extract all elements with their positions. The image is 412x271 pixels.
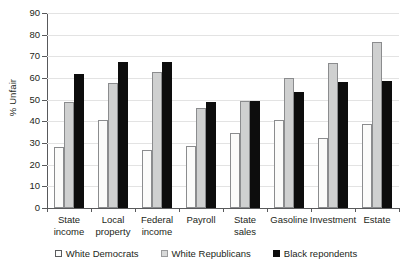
bar [74,74,84,208]
y-tick-label-text: 80 [2,30,40,40]
bar-group [267,13,311,208]
y-tick-label-text: 70 [2,51,40,61]
black-square-icon [273,250,280,257]
x-tick-mark [311,208,312,212]
y-tick-label: 0 [0,203,40,213]
bar-chart: % Unfair 0102030405060708090 State incom… [0,0,412,271]
bar [338,82,348,208]
legend-item: White Republicans [161,248,251,259]
bar [162,62,172,208]
bar [250,101,260,208]
bar-group [47,13,91,208]
y-tick-label-text: 30 [2,138,40,148]
y-tick-label: 50 [0,95,40,105]
bar [382,81,392,208]
y-tick-label-text: 0 [2,203,40,213]
bar [328,63,338,208]
y-tick-label-text: 20 [2,160,40,170]
x-tick-mark [91,208,92,212]
x-tick-mark [47,208,48,212]
bar-group [355,13,399,208]
bar [186,146,196,208]
y-tick-label: 40 [0,116,40,126]
bar [108,83,118,208]
gray-square-icon [161,250,168,257]
bar [318,138,328,208]
y-tick-label-text: 50 [2,95,40,105]
white-square-icon [55,250,62,257]
bar-group [311,13,355,208]
bar [64,102,74,208]
y-tick-label-text: 90 [2,8,40,18]
bar [372,42,382,208]
bar [98,120,108,208]
bar [196,108,206,208]
bar-group [91,13,135,208]
y-tick-label: 90 [0,8,40,18]
y-tick-label-text: 40 [2,116,40,126]
bar [284,78,294,208]
x-tick-mark [135,208,136,212]
y-tick-label: 10 [0,181,40,191]
y-tick-label-text: 10 [2,181,40,191]
bar [294,92,304,208]
y-tick-label: 30 [0,138,40,148]
x-tick-mark [179,208,180,212]
bar-group [179,13,223,208]
y-tick-label: 60 [0,73,40,83]
bar [230,133,240,208]
legend-item: Black repondents [273,248,357,259]
y-tick-label: 70 [0,51,40,61]
x-tick-mark [223,208,224,212]
legend-item-label: White Democrats [66,248,139,259]
bar [240,101,250,208]
legend-item: White Democrats [55,248,139,259]
bar [274,120,284,208]
plot-area [47,13,399,208]
x-tick-mark [399,208,400,212]
x-axis-label: Estate [347,214,407,226]
legend-item-label: Black repondents [284,248,357,259]
bar [152,72,162,209]
bar [54,147,64,208]
y-tick-label: 80 [0,30,40,40]
y-tick-label-text: 60 [2,73,40,83]
bar [142,150,152,209]
bar-group [135,13,179,208]
bar-group [223,13,267,208]
bar [362,124,372,209]
legend-item-label: White Republicans [172,248,251,259]
x-tick-mark [267,208,268,212]
chart-legend: White DemocratsWhite RepublicansBlack re… [0,248,412,259]
bar [206,102,216,208]
y-tick-label: 20 [0,160,40,170]
bar [118,62,128,208]
x-tick-mark [355,208,356,212]
